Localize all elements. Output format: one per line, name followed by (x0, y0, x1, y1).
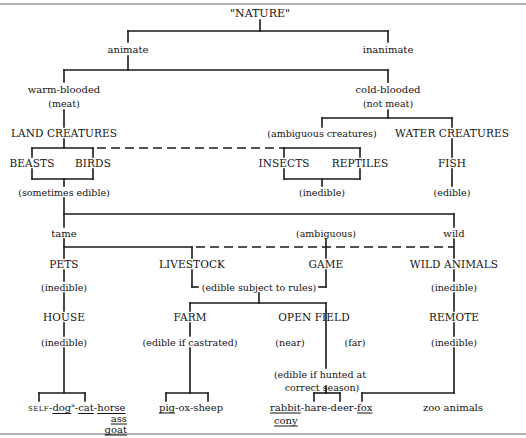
leaf-cat: cat (78, 402, 94, 413)
node-tame: tame (51, 228, 76, 239)
note-meat: (meat) (48, 98, 80, 109)
node-pets: PETS (49, 259, 78, 270)
node-warm-blooded: warm-blooded (28, 84, 101, 95)
leaf-self: SELF (28, 405, 49, 413)
diagram-connectors (0, 0, 526, 438)
note-remote-inedible: (inedible) (431, 337, 477, 348)
note-insects-inedible: (inedible) (299, 187, 345, 198)
leaf-zoo-animals: zoo animals (423, 402, 483, 413)
note-not-meat: (not meat) (363, 98, 413, 109)
note-near: (near) (275, 337, 304, 348)
node-wild-animals: WILD ANIMALS (410, 259, 498, 270)
node-game: GAME (309, 259, 344, 270)
node-ambiguous: (ambiguous) (296, 228, 356, 239)
note-wild-inedible: (inedible) (431, 282, 477, 293)
leaf-goat: goat (105, 424, 127, 435)
note-fish-edible: (edible) (434, 187, 471, 198)
note-sometimes-edible: (sometimes edible) (18, 187, 110, 198)
note-edible-if-castrated: (edible if castrated) (143, 337, 238, 348)
node-fish: FISH (438, 158, 466, 169)
note-pets-inedible: (inedible) (41, 282, 87, 293)
node-livestock: LIVESTOCK (159, 259, 225, 270)
note-house-inedible: (inedible) (41, 337, 87, 348)
leaf-farm-group: pig-ox-sheep (159, 402, 223, 413)
node-open-field: OPEN FIELD (278, 312, 349, 323)
nature-classification-diagram: "NATURE" animate inanimate warm-blooded … (0, 0, 526, 438)
node-cold-blooded: cold-blooded (356, 84, 421, 95)
node-nature: "NATURE" (230, 8, 290, 19)
node-house: HOUSE (43, 312, 85, 323)
node-insects: INSECTS (258, 158, 309, 169)
node-animate: animate (108, 44, 149, 55)
note-hunted-line1: (edible if hunted at (274, 369, 366, 380)
node-remote: REMOTE (429, 312, 479, 323)
leaf-horse: horse (97, 402, 125, 413)
leaf-ox-sheep: -ox-sheep (175, 402, 223, 413)
node-beasts: BEASTS (10, 158, 55, 169)
note-hunted-line2: correct season) (285, 382, 359, 393)
leaf-dog: dog (52, 402, 71, 413)
node-birds: BIRDS (75, 158, 111, 169)
node-reptiles: REPTILES (332, 158, 388, 169)
leaf-cony: cony (274, 415, 298, 426)
leaf-field-group: rabbit-hare-deer-fox (270, 402, 372, 413)
leaf-rabbit: rabbit (270, 402, 301, 413)
node-land-creatures: LAND CREATURES (11, 128, 117, 139)
note-edible-subject-to-rules: (edible subject to rules) (202, 282, 316, 293)
leaf-ass: ass (111, 413, 127, 424)
node-farm: FARM (173, 312, 206, 323)
leaf-hare-deer: -hare-deer- (301, 402, 357, 413)
node-ambiguous-creatures: (ambiguous creatures) (267, 128, 376, 139)
node-wild: wild (443, 228, 464, 239)
node-inanimate: inanimate (363, 44, 414, 55)
note-far: (far) (344, 337, 365, 348)
leaf-fox: fox (357, 402, 372, 413)
node-water-creatures: WATER CREATURES (395, 128, 509, 139)
leaf-pig: pig (159, 402, 175, 413)
